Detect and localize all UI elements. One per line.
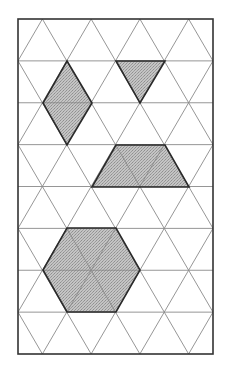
triangle-shape: [116, 61, 165, 103]
trapezoid-shape: [92, 145, 189, 187]
triangle-grid-diagram: [0, 0, 228, 372]
